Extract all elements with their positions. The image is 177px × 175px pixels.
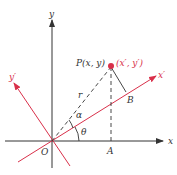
a-label: A <box>106 146 114 156</box>
origin-label: O <box>41 147 49 157</box>
perpendicular-pb <box>111 67 126 92</box>
alpha-arc <box>69 120 73 128</box>
rotation-of-axes-diagram: y x x′ y′ O P(x, y) (x′, y′) r α θ A B <box>0 0 177 175</box>
x-axis-label: x <box>168 136 173 146</box>
alpha-label: α <box>76 110 82 120</box>
theta-label: θ <box>81 127 87 137</box>
point-prime-label: (x′, y′) <box>116 58 143 68</box>
theta-arc <box>75 127 79 141</box>
y-prime-label: y′ <box>8 72 16 82</box>
x-prime-label: x′ <box>158 70 165 80</box>
b-label: B <box>126 95 134 105</box>
r-label: r <box>78 90 83 100</box>
point-p <box>108 63 114 69</box>
point-p-label: P(x, y) <box>75 58 105 68</box>
y-axis-label: y <box>48 9 55 19</box>
